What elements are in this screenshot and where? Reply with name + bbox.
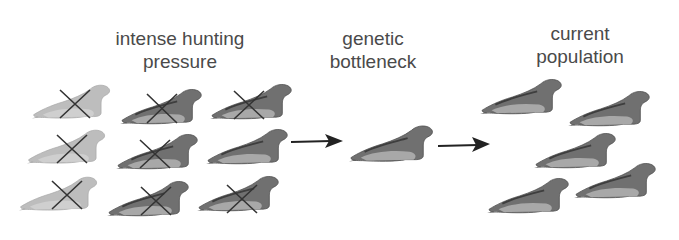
cross-icon	[55, 133, 89, 165]
label-line: pressure	[95, 50, 265, 73]
cross-icon	[50, 179, 84, 211]
cross-icon	[232, 89, 266, 121]
cross-icon	[139, 185, 173, 217]
label-intense-hunting-pressure: intense hunting pressure	[95, 27, 265, 73]
seal-dark-icon	[572, 162, 658, 200]
seal-dark-icon	[478, 78, 564, 116]
label-line: population	[520, 45, 640, 68]
label-line: bottleneck	[318, 50, 428, 73]
seal-dark-icon	[485, 177, 571, 215]
label-line: current	[520, 22, 640, 45]
label-line: intense hunting	[95, 27, 265, 50]
cross-icon	[58, 88, 92, 120]
cross-icon	[138, 138, 172, 170]
seal-dark-icon	[566, 90, 652, 128]
label-current-population: current population	[520, 22, 640, 68]
seal-dark-icon	[204, 128, 290, 166]
seal-dark-icon	[347, 124, 435, 164]
arrow-right-icon	[436, 135, 492, 155]
cross-icon	[145, 92, 179, 125]
label-line: genetic	[318, 27, 428, 50]
arrow-right-icon	[289, 132, 345, 152]
label-genetic-bottleneck: genetic bottleneck	[318, 27, 428, 73]
cross-icon	[225, 183, 259, 215]
